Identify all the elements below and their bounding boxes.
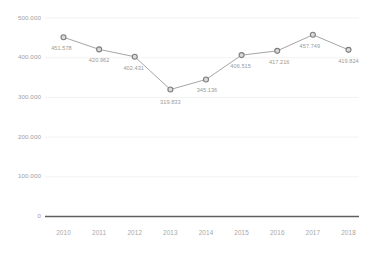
y-axis-tick-label: 300.000 bbox=[18, 93, 42, 100]
x-axis-tick-label: 2017 bbox=[306, 229, 321, 236]
data-point-label: 417.216 bbox=[269, 59, 290, 65]
y-axis-tick-label: 0 bbox=[37, 212, 41, 219]
y-axis-tick-label: 400.000 bbox=[18, 53, 42, 60]
data-point-label: 319.833 bbox=[160, 99, 181, 105]
x-axis-tick-label: 2014 bbox=[199, 229, 214, 236]
y-axis-tick-label: 100.000 bbox=[18, 172, 42, 179]
data-point-label: 457.749 bbox=[300, 43, 321, 49]
data-point-marker[interactable] bbox=[275, 48, 280, 53]
line-chart: 0100.000200.000300.000400.000500.000 451… bbox=[0, 0, 387, 257]
x-axis-tick-labels: 201020112012201320142015201620172018 bbox=[56, 229, 356, 236]
data-point-label: 451.578 bbox=[51, 45, 72, 51]
x-axis-tick-label: 2010 bbox=[56, 229, 71, 236]
x-axis-tick-label: 2016 bbox=[270, 229, 285, 236]
data-point-marker[interactable] bbox=[346, 47, 351, 52]
data-point-marker[interactable] bbox=[97, 47, 102, 52]
data-point-marker[interactable] bbox=[168, 87, 173, 92]
data-point-label: 419.824 bbox=[338, 58, 359, 64]
data-point-label: 406.515 bbox=[230, 63, 251, 69]
data-point-marker[interactable] bbox=[132, 54, 137, 59]
data-point-marker[interactable] bbox=[239, 53, 244, 58]
data-point-label: 345.136 bbox=[197, 87, 218, 93]
data-point-marker[interactable] bbox=[61, 35, 66, 40]
chart-canvas: 0100.000200.000300.000400.000500.000 451… bbox=[0, 0, 387, 257]
data-point-marker[interactable] bbox=[310, 32, 315, 37]
x-axis-tick-label: 2013 bbox=[163, 229, 178, 236]
y-axis-tick-label: 500.000 bbox=[18, 14, 42, 21]
data-point-label: 402.431 bbox=[123, 65, 144, 71]
x-axis-tick-label: 2015 bbox=[234, 229, 249, 236]
data-point-labels: 451.578420.962402.431319.833345.136406.5… bbox=[51, 43, 359, 105]
x-axis-tick-label: 2018 bbox=[341, 229, 356, 236]
y-axis-tick-labels: 0100.000200.000300.000400.000500.000 bbox=[18, 14, 42, 220]
x-axis-tick-label: 2011 bbox=[92, 229, 106, 236]
y-axis-tick-label: 200.000 bbox=[18, 133, 42, 140]
data-point-label: 420.962 bbox=[89, 57, 110, 63]
data-point-marker[interactable] bbox=[204, 77, 209, 82]
x-axis-tick-label: 2012 bbox=[127, 229, 142, 236]
